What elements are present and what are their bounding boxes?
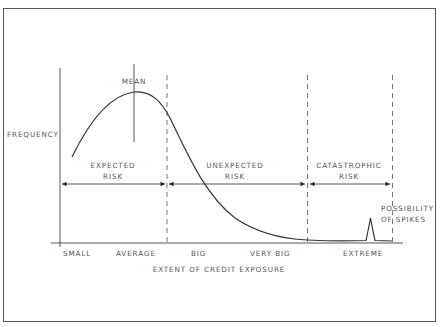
- x-axis-title: EXTENT OF CREDIT EXPOSURE: [153, 265, 286, 274]
- region-unexpected-line1: UNEXPECTED: [206, 161, 263, 170]
- x-tick-extreme: EXTREME: [343, 249, 383, 258]
- x-tick-small: SMALL: [63, 249, 91, 258]
- x-tick-average: AVERAGE: [116, 249, 156, 258]
- region-unexpected-line2: RISK: [225, 172, 245, 181]
- y-axis-label: FREQUENCY: [7, 130, 59, 139]
- spike-label-line2: OF SPIKES: [381, 215, 426, 224]
- x-tick-very-big: VERY BIG: [250, 249, 291, 258]
- spike-label-line1: POSSIBILITY: [381, 204, 434, 213]
- region-catastrophic-line2: RISK: [339, 172, 359, 181]
- credit-risk-diagram: FREQUENCY MEAN EXPECTED RISK UNEXPECTED …: [0, 0, 440, 327]
- region-expected-line1: EXPECTED: [90, 161, 135, 170]
- mean-label: MEAN: [122, 77, 147, 86]
- x-tick-big: BIG: [191, 249, 206, 258]
- region-expected-line2: RISK: [103, 172, 123, 181]
- region-catastrophic-line1: CATASTROPHIC: [316, 161, 381, 170]
